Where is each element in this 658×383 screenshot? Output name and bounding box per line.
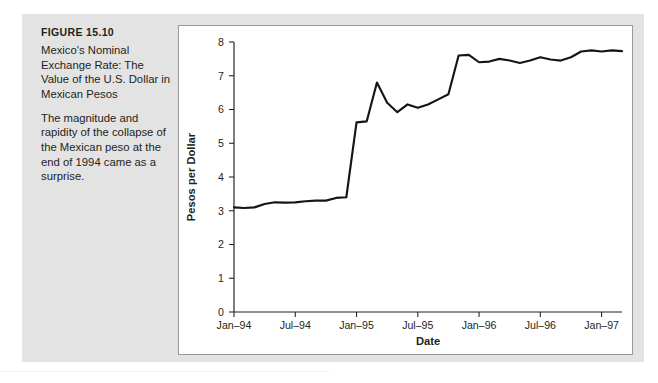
line-chart: 012345678 Jan–94Jul–94Jan–95Jul–95Jan–96… [179,26,632,354]
y-tick-label: 3 [218,205,224,217]
chart-panel: 012345678 Jan–94Jul–94Jan–95Jul–95Jan–96… [178,25,633,355]
y-tick-label: 2 [218,238,224,250]
figure-caption: FIGURE 15.10 Mexico's Nominal Exchange R… [41,26,172,184]
y-tick-label: 7 [218,70,224,82]
figure-title: Mexico's Nominal Exchange Rate: The Valu… [41,43,172,102]
x-tick-label: Jan–96 [462,319,497,331]
y-tick-label: 4 [218,171,224,183]
figure-page: FIGURE 15.10 Mexico's Nominal Exchange R… [0,0,658,383]
y-axis-title: Pesos per Dollar [185,132,197,221]
x-tick-label: Jan–95 [339,319,374,331]
x-tick-label: Jul–94 [280,319,311,331]
y-tick-label: 1 [218,272,224,284]
y-tick-label: 5 [218,137,224,149]
y-tick-label: 8 [218,36,224,48]
footer-divider [0,371,330,372]
y-tick-label: 0 [218,306,224,318]
x-tick-label: Jul–95 [402,319,433,331]
y-tick-label: 6 [218,103,224,115]
y-axis-ticks: 012345678 [218,36,234,318]
x-tick-label: Jan–97 [584,319,619,331]
x-tick-label: Jan–94 [217,319,252,331]
figure-description: The magnitude and rapidity of the collap… [41,111,172,184]
x-axis-ticks: Jan–94Jul–94Jan–95Jul–95Jan–96Jul–96Jan–… [217,312,619,331]
x-tick-label: Jul–96 [525,319,556,331]
x-axis-title: Date [416,335,440,347]
figure-number: FIGURE 15.10 [41,26,172,38]
exchange-rate-line [234,50,622,208]
